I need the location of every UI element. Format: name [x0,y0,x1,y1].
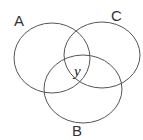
set-a-label: A [14,12,24,29]
venn-diagram: A C B y [0,0,143,140]
set-b-label: B [72,122,82,139]
set-b-ellipse [44,55,122,123]
set-c-label: C [111,7,122,24]
set-a-ellipse [14,23,90,93]
intersection-label: y [72,63,81,79]
